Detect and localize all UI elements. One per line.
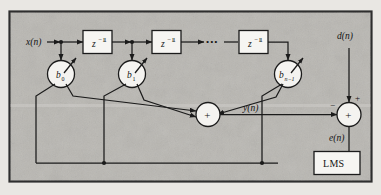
bus-dot-1 xyxy=(102,161,106,165)
delay-2-base: z xyxy=(160,39,165,49)
error-summer-plus-sign: + xyxy=(355,93,360,103)
delay-block-n xyxy=(239,31,268,54)
tap-dot-0 xyxy=(59,40,63,44)
block-diagram-canvas: x(n) d(n) y(n) e(n) z −1 1 z −1 1 z −1 1… xyxy=(0,0,381,195)
adaptive-filter-figure: x(n) d(n) y(n) e(n) z −1 1 z −1 1 z −1 1… xyxy=(0,0,381,195)
delay-1-exponent-one: 1 xyxy=(104,36,107,43)
tap-dot-1 xyxy=(130,40,134,44)
b0-subscript: 0 xyxy=(62,76,65,82)
bus-dot-2 xyxy=(260,161,264,165)
bn-subscript: n−1 xyxy=(285,76,295,82)
delay-2-exponent-one: 1 xyxy=(173,36,176,43)
label-output-signal: y(n) xyxy=(242,103,258,114)
label-error-signal: e(n) xyxy=(329,133,344,144)
delay-block-1 xyxy=(83,31,112,54)
delay-n-base: z xyxy=(247,39,252,49)
scan-band xyxy=(11,104,371,107)
output-summer-symbol: + xyxy=(204,109,210,121)
delay-n-exponent-one: 1 xyxy=(260,36,263,43)
delay-1-base: z xyxy=(91,39,96,49)
error-summer-symbol: + xyxy=(345,109,351,121)
delay-block-2 xyxy=(152,31,181,54)
b1-subscript: 1 xyxy=(133,76,136,82)
label-input-signal: x(n) xyxy=(25,37,41,48)
b0-base: b xyxy=(56,70,61,80)
ellipsis-label: ••• xyxy=(206,37,218,47)
b1-base: b xyxy=(127,70,132,80)
lms-block-label: LMS xyxy=(323,158,344,169)
label-desired-signal: d(n) xyxy=(337,31,353,42)
error-summer-minus-sign: − xyxy=(330,100,335,110)
bn-base: b xyxy=(279,70,284,80)
